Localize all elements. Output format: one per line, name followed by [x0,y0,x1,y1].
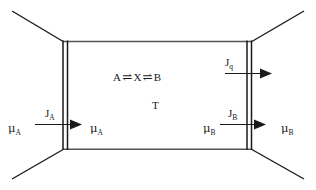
mu-b-outside-label: μB [281,119,294,135]
flux-a-subscript: A [49,113,54,122]
reaction-species-b: B [154,71,162,83]
reaction-species-x: X [133,71,141,83]
equilibrium-arrow-left: ⇌ [121,70,133,84]
reaction-equation: A⇌X⇌B [113,71,161,83]
temperature-label: T [152,100,159,111]
heat-flux-label: Jq [225,57,233,68]
reaction-species-a: A [113,71,121,83]
flux-b-arrow-head [254,120,266,130]
equilibrium-arrow-right: ⇌ [142,70,154,84]
heat-flux-arrow-head [260,69,272,79]
diagram-canvas [0,0,316,190]
mu-a-inside-label: μA [90,119,103,135]
reservoir-line-bottom-right [251,149,304,179]
mu-b-outside-subscript: B [288,128,293,137]
flux-a-arrow-head [70,120,82,130]
mu-a-outside-subscript: A [15,128,20,137]
mu-a-inside-subscript: A [97,128,102,137]
reaction-chamber-flux-diagram: A⇌X⇌B T μA μA JA μB μB JB Jq [0,0,316,190]
mu-b-inside-subscript: B [210,128,215,137]
heat-flux-subscript: q [229,62,233,71]
reservoir-line-top-right [251,11,304,42]
mu-b-inside-label: μB [203,119,216,135]
reservoir-line-bottom-left [12,149,64,179]
reservoir-line-top-left [12,11,64,42]
mu-a-outside-label: μA [8,119,21,135]
flux-b-label: JB [228,108,237,119]
flux-b-subscript: B [232,113,237,122]
flux-a-label: JA [45,108,55,119]
